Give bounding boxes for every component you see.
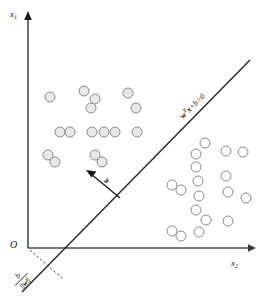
data-point [176,231,186,241]
data-point [99,127,109,137]
data-point [238,147,248,157]
data-point [176,185,186,195]
data-point [167,226,177,236]
data-point [191,149,201,159]
data-point [201,215,211,225]
data-point [241,193,251,203]
data-point [50,157,60,167]
data-point [132,127,142,137]
data-point [90,94,100,104]
data-point [223,216,233,226]
data-point [191,205,201,215]
data-point [191,162,201,172]
data-point [194,227,204,237]
data-point [65,127,75,137]
data-point [221,171,231,181]
data-point [221,146,231,156]
data-point [110,127,120,137]
data-point [86,103,96,113]
data-point [55,127,65,137]
data-point [123,88,133,98]
data-point [194,191,204,201]
data-point [193,176,203,186]
data-point [223,187,233,197]
data-point [200,138,210,148]
origin-label: O [10,239,17,250]
data-point [79,86,89,96]
data-point [167,180,177,190]
svm-hyperplane-figure: x1 x2 O wTx+b=0 w b ||w|| [0,0,262,302]
data-point [45,92,55,102]
data-point [97,157,107,167]
data-point [131,103,141,113]
data-point [87,127,97,137]
